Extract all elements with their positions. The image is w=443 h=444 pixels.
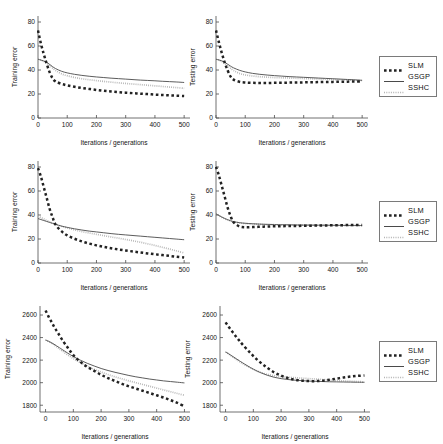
svg-text:1800: 1800 [22, 402, 37, 409]
svg-text:100: 100 [68, 415, 79, 422]
legend-label-gsgp: GSGP [408, 357, 430, 366]
svg-text:100: 100 [248, 415, 259, 422]
svg-text:60: 60 [206, 187, 214, 194]
svg-text:Iterations / generations: Iterations / generations [80, 139, 148, 147]
svg-text:100: 100 [240, 121, 251, 128]
series-line-slm [46, 311, 185, 407]
svg-text:0: 0 [214, 121, 218, 128]
svg-text:80: 80 [206, 18, 214, 25]
legend-item-gsgp[interactable]: GSGP [383, 71, 432, 82]
svg-text:100: 100 [240, 266, 251, 273]
legend-label-slm: SLM [408, 61, 424, 70]
svg-text:20: 20 [206, 235, 214, 242]
legend-label-slm: SLM [408, 346, 424, 355]
svg-text:300: 300 [298, 266, 309, 273]
legend-key-dotted-thin [383, 228, 405, 237]
svg-text:60: 60 [28, 42, 36, 49]
legend-item-gsgp[interactable]: GSGP [383, 216, 432, 227]
svg-text:20: 20 [28, 235, 36, 242]
svg-text:0: 0 [209, 114, 213, 121]
chart-r3c2-svg: 010020030040050018002000220024002600Iter… [180, 296, 378, 442]
svg-text:60: 60 [206, 42, 214, 49]
series-line-gsgp [46, 340, 185, 383]
svg-text:60: 60 [28, 187, 36, 194]
chart-panel-r2c2: 0100200300400500020406080Iterations / ge… [186, 151, 376, 293]
svg-text:0: 0 [31, 259, 35, 266]
series-line-gsgp [38, 59, 184, 82]
svg-text:200: 200 [269, 121, 280, 128]
svg-text:400: 400 [327, 121, 338, 128]
svg-text:0: 0 [44, 415, 48, 422]
series-line-gsgp [216, 59, 362, 80]
legend-item-slm[interactable]: SLM [383, 205, 432, 216]
chart-r1c1-svg: 0100200300400500020406080Iterations / ge… [8, 6, 198, 148]
svg-text:Testing error: Testing error [189, 192, 197, 231]
svg-text:500: 500 [359, 415, 370, 422]
legend-key-dotted-thick [383, 206, 405, 215]
legend-row-2: SLM GSGP SSHC [379, 201, 437, 242]
svg-text:2600: 2600 [22, 311, 37, 318]
svg-text:200: 200 [96, 415, 107, 422]
svg-text:Testing error: Testing error [184, 339, 192, 378]
svg-text:40: 40 [206, 66, 214, 73]
legend-label-slm: SLM [408, 206, 424, 215]
svg-text:400: 400 [331, 415, 342, 422]
svg-text:Training error: Training error [11, 191, 19, 232]
legend-key-solid [383, 357, 405, 366]
legend-item-slm[interactable]: SLM [383, 60, 432, 71]
legend-item-sshc[interactable]: SSHC [383, 82, 432, 93]
svg-text:80: 80 [206, 163, 214, 170]
svg-text:2400: 2400 [22, 334, 37, 341]
svg-text:2000: 2000 [202, 379, 217, 386]
svg-text:80: 80 [28, 18, 36, 25]
svg-text:Iterations / generations: Iterations / generations [261, 433, 329, 441]
svg-text:1800: 1800 [202, 402, 217, 409]
svg-text:300: 300 [123, 415, 134, 422]
svg-text:400: 400 [151, 415, 162, 422]
svg-text:400: 400 [149, 266, 160, 273]
chart-r1c2-svg: 0100200300400500020406080Iterations / ge… [186, 6, 376, 148]
svg-text:Iterations / generations: Iterations / generations [81, 433, 149, 441]
legend-item-slm[interactable]: SLM [383, 345, 432, 356]
svg-text:2600: 2600 [202, 311, 217, 318]
series-line-slm [216, 30, 362, 83]
svg-text:Training error: Training error [11, 46, 19, 87]
svg-text:500: 500 [357, 266, 368, 273]
legend-item-sshc[interactable]: SSHC [383, 227, 432, 238]
svg-text:300: 300 [120, 266, 131, 273]
series-line-slm [38, 168, 184, 257]
svg-text:40: 40 [28, 211, 36, 218]
svg-text:Testing error: Testing error [189, 47, 197, 86]
legend-item-sshc[interactable]: SSHC [383, 367, 432, 378]
svg-text:200: 200 [276, 415, 287, 422]
svg-text:2000: 2000 [22, 379, 37, 386]
legend-label-gsgp: GSGP [408, 72, 430, 81]
legend-item-gsgp[interactable]: GSGP [383, 356, 432, 367]
svg-text:300: 300 [120, 121, 131, 128]
svg-text:200: 200 [91, 121, 102, 128]
legend-label-sshc: SSHC [408, 228, 429, 237]
figure-panel-grid: 0100200300400500020406080Iterations / ge… [0, 0, 443, 444]
svg-text:100: 100 [62, 266, 73, 273]
svg-text:0: 0 [31, 114, 35, 121]
series-line-slm [216, 167, 362, 227]
svg-text:300: 300 [303, 415, 314, 422]
chart-panel-r3c2: 010020030040050018002000220024002600Iter… [180, 296, 378, 442]
svg-text:500: 500 [357, 121, 368, 128]
svg-text:40: 40 [206, 211, 214, 218]
chart-r3c1-svg: 010020030040050018002000220024002600Iter… [0, 296, 198, 442]
chart-panel-r2c1: 0100200300400500020406080Iterations / ge… [8, 151, 198, 293]
svg-text:400: 400 [149, 121, 160, 128]
series-line-gsgp [216, 214, 362, 226]
legend-row-1: SLM GSGP SSHC [379, 56, 437, 97]
svg-text:2400: 2400 [202, 334, 217, 341]
chart-r2c2-svg: 0100200300400500020406080Iterations / ge… [186, 151, 376, 293]
svg-text:200: 200 [269, 266, 280, 273]
svg-text:0: 0 [36, 266, 40, 273]
legend-label-gsgp: GSGP [408, 217, 430, 226]
chart-panel-r1c1: 0100200300400500020406080Iterations / ge… [8, 6, 198, 148]
legend-key-dotted-thin [383, 368, 405, 377]
legend-key-dotted-thick [383, 346, 405, 355]
legend-label-sshc: SSHC [408, 368, 429, 377]
legend-key-solid [383, 217, 405, 226]
